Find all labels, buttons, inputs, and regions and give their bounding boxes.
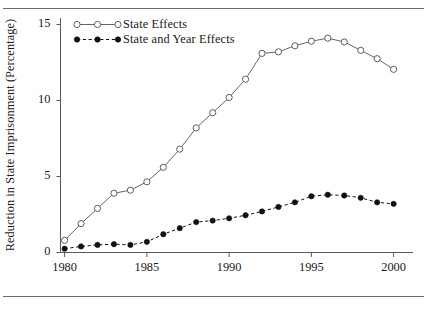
data-point <box>292 43 298 49</box>
data-point <box>374 56 380 62</box>
x-tick-label-1990: 1990 <box>204 260 254 275</box>
series-line-1 <box>65 38 394 240</box>
data-point <box>325 35 331 41</box>
legend-marker-open-circle <box>94 21 100 27</box>
x-tick-label-1980: 1980 <box>40 260 90 275</box>
data-point <box>144 179 150 185</box>
data-point <box>391 201 396 206</box>
data-point <box>194 219 199 224</box>
data-point <box>375 200 380 205</box>
data-point <box>259 50 265 56</box>
data-point <box>342 193 347 198</box>
x-tick-label-1995: 1995 <box>286 260 336 275</box>
x-tick-label-1985: 1985 <box>122 260 172 275</box>
data-point <box>161 232 166 237</box>
data-point <box>160 164 166 170</box>
data-point <box>292 200 297 205</box>
legend-glyphs <box>74 21 121 42</box>
data-point <box>62 246 67 251</box>
x-tick-label-2000: 2000 <box>369 260 419 275</box>
y-tick-label-0: 0 <box>25 244 51 259</box>
data-point <box>226 216 231 221</box>
data-point <box>78 244 83 249</box>
figure-container: Reduction in State Imprisonment (Percent… <box>0 0 427 309</box>
data-point <box>177 146 183 152</box>
legend-entry-state-and-year-effects-label: State and Year Effects <box>123 32 235 47</box>
data-point <box>226 94 232 100</box>
y-tick-label-15: 15 <box>25 16 51 31</box>
legend-marker-filled-circle <box>95 37 101 43</box>
series-2 <box>62 192 396 251</box>
legend-marker-filled-circle <box>74 37 80 43</box>
data-point <box>341 39 347 45</box>
data-point <box>325 192 330 197</box>
data-point <box>275 49 281 55</box>
data-point <box>94 205 100 211</box>
data-point <box>358 47 364 53</box>
series-group <box>62 35 397 251</box>
data-point <box>193 125 199 131</box>
y-tick-label-10: 10 <box>25 92 51 107</box>
data-point <box>78 221 84 227</box>
axes-group <box>57 18 414 257</box>
data-point <box>259 209 264 214</box>
data-point <box>391 66 397 72</box>
legend-marker-open-circle <box>74 21 80 27</box>
data-point <box>127 187 133 193</box>
data-point <box>309 194 314 199</box>
data-point <box>128 242 133 247</box>
series-1 <box>62 35 397 243</box>
data-point <box>308 38 314 44</box>
data-point <box>358 195 363 200</box>
data-point <box>111 241 116 246</box>
data-point <box>95 242 100 247</box>
plot-area: 0 5 10 15 1980 1985 1990 1995 2000 State… <box>0 0 427 309</box>
data-point <box>210 110 216 116</box>
data-point <box>276 204 281 209</box>
legend-marker-open-circle <box>115 21 121 27</box>
data-point <box>62 237 68 243</box>
legend-entry-state-effects-label: State Effects <box>123 17 187 32</box>
y-tick-label-5: 5 <box>25 168 51 183</box>
series-line-2 <box>65 195 394 249</box>
data-point <box>242 76 248 82</box>
legend-marker-filled-circle <box>115 37 121 43</box>
data-point <box>210 218 215 223</box>
data-point <box>144 239 149 244</box>
data-point <box>111 190 117 196</box>
data-point <box>243 213 248 218</box>
data-point <box>177 226 182 231</box>
